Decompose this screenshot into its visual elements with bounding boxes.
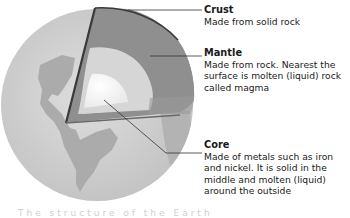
- crust-description: Made from solid rock: [204, 16, 349, 27]
- core-label: Core Made of metals such as iron and nic…: [204, 139, 349, 196]
- mantle-title: Mantle: [204, 47, 349, 59]
- mantle-label: Mantle Made from rock. Nearest the surfa…: [204, 47, 349, 93]
- crust-title: Crust: [204, 4, 349, 16]
- core-description: Made of metals such as iron and nickel. …: [204, 151, 349, 196]
- crust-label: Crust Made from solid rock: [204, 4, 349, 27]
- mantle-description: Made from rock. Nearest the surface is m…: [204, 59, 349, 93]
- bottom-caption: The structure of the Earth: [18, 208, 213, 218]
- earth-structure-diagram: Crust Made from solid rock Mantle Made f…: [0, 0, 350, 218]
- core-title: Core: [204, 139, 349, 151]
